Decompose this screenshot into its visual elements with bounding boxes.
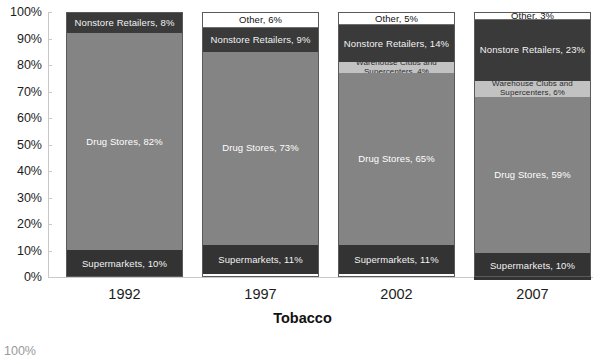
bar-segment-label: Drug Stores, 82%: [84, 137, 165, 147]
x-axis-label-2007: 2007: [474, 286, 591, 302]
bar-column-1997[interactable]: Other, 6%Nonstore Retailers, 9%Drug Stor…: [202, 12, 319, 277]
bar-segment-label: Supermarkets, 10%: [488, 261, 577, 271]
bar-segment-label: Warehouse Clubs and Supercenters, 4%: [338, 62, 455, 73]
bar-segment-label: Warehouse Clubs and Supercenters, 6%: [474, 81, 591, 97]
y-axis-tick-30: 30%: [0, 193, 42, 203]
bar-segment-label: Drug Stores, 65%: [356, 154, 437, 164]
bar-segment-label: Supermarkets, 10%: [80, 259, 169, 269]
bar-segment-label: Other, 5%: [373, 14, 420, 24]
y-axis-tick-40: 40%: [0, 166, 42, 176]
bar-group: Nonstore Retailers, 8%Drug Stores, 82%Su…: [48, 12, 593, 277]
bar-segment-drug-2002[interactable]: Drug Stores, 65%: [338, 73, 455, 245]
bar-segment-supermarkets-2007[interactable]: Supermarkets, 10%: [474, 253, 591, 280]
y-axis-tick-90: 90%: [0, 34, 42, 44]
bar-segment-supermarkets-2002[interactable]: Supermarkets, 11%: [338, 245, 455, 274]
bar-segment-label: Supermarkets, 11%: [352, 255, 440, 265]
y-axis-tick-60: 60%: [0, 113, 42, 123]
y-axis-tick-20: 20%: [0, 219, 42, 229]
bar-stack-2007: Other, 3%Nonstore Retailers, 23%Warehous…: [474, 12, 591, 277]
next-chart-partial-tick: 100%: [4, 345, 36, 357]
bar-segment-label: Nonstore Retailers, 9%: [209, 35, 313, 45]
y-axis-tick-mark-0: [48, 277, 52, 278]
bar-stack-2002: Other, 5%Nonstore Retailers, 14%Warehous…: [338, 12, 455, 277]
bar-segment-warehouse-2002[interactable]: Warehouse Clubs and Supercenters, 4%: [338, 62, 455, 73]
bar-segment-other-2007[interactable]: Other, 3%: [474, 12, 591, 20]
y-axis-tick-0: 0%: [0, 272, 42, 282]
bar-column-1992[interactable]: Nonstore Retailers, 8%Drug Stores, 82%Su…: [66, 12, 183, 277]
bar-segment-nonstore-2007[interactable]: Nonstore Retailers, 23%: [474, 20, 591, 81]
bar-segment-label: Drug Stores, 59%: [492, 170, 573, 180]
bar-segment-label: Other, 6%: [237, 15, 284, 25]
bar-segment-label: Supermarkets, 11%: [216, 255, 304, 265]
bar-segment-label: Other, 3%: [509, 12, 556, 20]
tobacco-stacked-bar-chart: 0%10%20%30%40%50%60%70%80%90%100% Nonsto…: [0, 0, 605, 358]
bar-segment-nonstore-1992[interactable]: Nonstore Retailers, 8%: [66, 12, 183, 33]
bar-segment-label: Drug Stores, 73%: [220, 143, 301, 153]
bar-segment-label: Nonstore Retailers, 23%: [478, 45, 587, 55]
bar-segment-label: Nonstore Retailers, 8%: [73, 18, 177, 28]
y-axis-tick-50: 50%: [0, 140, 42, 150]
x-axis-label-2002: 2002: [338, 286, 455, 302]
bar-segment-other-1997[interactable]: Other, 6%: [202, 12, 319, 28]
bar-segment-supermarkets-1992[interactable]: Supermarkets, 10%: [66, 250, 183, 277]
x-axis-label-1997: 1997: [202, 286, 319, 302]
y-axis-tick-80: 80%: [0, 60, 42, 70]
bar-stack-1997: Other, 6%Nonstore Retailers, 9%Drug Stor…: [202, 12, 319, 277]
chart-title: Tobacco: [0, 310, 605, 326]
y-axis-tick-10: 10%: [0, 246, 42, 256]
bar-column-2007[interactable]: Other, 3%Nonstore Retailers, 23%Warehous…: [474, 12, 591, 277]
bar-segment-drug-1997[interactable]: Drug Stores, 73%: [202, 52, 319, 245]
bar-segment-drug-1992[interactable]: Drug Stores, 82%: [66, 33, 183, 250]
bar-segment-drug-2007[interactable]: Drug Stores, 59%: [474, 97, 591, 253]
y-axis-tick-70: 70%: [0, 87, 42, 97]
bar-segment-warehouse-2007[interactable]: Warehouse Clubs and Supercenters, 6%: [474, 81, 591, 97]
bar-segment-supermarkets-1997[interactable]: Supermarkets, 11%: [202, 245, 319, 274]
bar-segment-label: Nonstore Retailers, 14%: [342, 39, 451, 49]
bar-column-2002[interactable]: Other, 5%Nonstore Retailers, 14%Warehous…: [338, 12, 455, 277]
bar-segment-other-2002[interactable]: Other, 5%: [338, 12, 455, 25]
x-axis-label-1992: 1992: [66, 286, 183, 302]
bar-segment-nonstore-2002[interactable]: Nonstore Retailers, 14%: [338, 25, 455, 62]
bar-segment-nonstore-1997[interactable]: Nonstore Retailers, 9%: [202, 28, 319, 52]
bar-stack-1992: Nonstore Retailers, 8%Drug Stores, 82%Su…: [66, 12, 183, 277]
y-axis-tick-100: 100%: [0, 7, 42, 17]
